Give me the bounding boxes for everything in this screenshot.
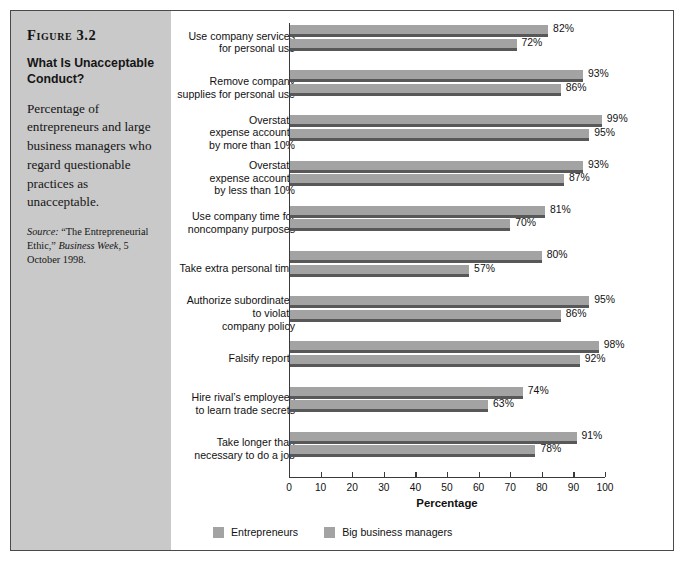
bar-value-label: 87% — [569, 172, 590, 183]
bar-value-label: 93% — [588, 68, 609, 79]
bar-value-label: 63% — [493, 398, 514, 409]
bar-shadow — [289, 228, 510, 231]
x-axis-tick — [415, 472, 416, 477]
bar-value-label: 95% — [594, 294, 615, 305]
x-axis-tick-label: 30 — [371, 482, 397, 493]
x-axis-title: Percentage — [289, 497, 605, 509]
x-axis-line — [289, 477, 605, 478]
bar-big-business-managers — [289, 39, 517, 48]
legend-swatch — [213, 527, 224, 538]
bar-big-business-managers — [289, 355, 580, 364]
bar-shadow — [289, 305, 589, 308]
figure-source: Source: “The Entrepreneurial Ethic,” Bus… — [27, 225, 157, 267]
bar-shadow — [289, 409, 488, 412]
x-axis-tick-label: 90 — [560, 482, 586, 493]
bar-shadow — [289, 441, 577, 444]
bar-shadow — [289, 138, 589, 141]
bar-value-label: 98% — [604, 339, 625, 350]
x-axis-tick — [542, 472, 543, 477]
legend-item-big-business-managers: Big business managers — [324, 526, 452, 538]
figure-title: What Is Unacceptable Conduct? — [27, 55, 157, 88]
bar-shadow — [289, 170, 583, 173]
chart-legend: EntrepreneursBig business managers — [213, 526, 452, 538]
bar-shadow — [289, 260, 542, 263]
x-axis-tick — [384, 472, 385, 477]
y-axis-line — [289, 23, 290, 477]
x-axis-tick-label: 60 — [466, 482, 492, 493]
x-axis-tick — [447, 472, 448, 477]
legend-label: Big business managers — [342, 526, 452, 538]
bar-entrepreneurs — [289, 70, 583, 79]
category-label: Authorize subordinates to violate compan… — [187, 294, 295, 332]
bar-value-label: 91% — [582, 430, 603, 441]
bar-value-label: 72% — [522, 37, 543, 48]
bar-shadow — [289, 454, 535, 457]
x-axis-tick-label: 20 — [339, 482, 365, 493]
legend-label: Entrepreneurs — [231, 526, 298, 538]
bar-value-label: 92% — [585, 353, 606, 364]
x-axis-tick — [321, 472, 322, 477]
bar-shadow — [289, 93, 561, 96]
bar-big-business-managers — [289, 84, 561, 93]
bar-big-business-managers — [289, 265, 469, 274]
category-label: Take longer than necessary to do a job — [194, 436, 295, 461]
x-axis-tick-label: 40 — [402, 482, 428, 493]
bar-shadow — [289, 364, 580, 367]
x-axis-tick-label: 50 — [434, 482, 460, 493]
bar-value-label: 95% — [594, 127, 615, 138]
category-label: Overstate expense accounts by more than … — [209, 114, 295, 152]
x-axis-tick — [479, 472, 480, 477]
bar-shadow — [289, 48, 517, 51]
x-axis-tick — [510, 472, 511, 477]
bar-entrepreneurs — [289, 432, 577, 441]
bar-value-label: 74% — [528, 385, 549, 396]
bar-value-label: 70% — [515, 217, 536, 228]
category-label: Overstate expense accounts by less than … — [210, 159, 295, 197]
bar-shadow — [289, 124, 602, 127]
bar-chart-plot: Use company services for personal use82%… — [171, 11, 673, 550]
bar-value-label: 86% — [566, 82, 587, 93]
chart-panel: Use company services for personal use82%… — [171, 11, 673, 550]
bar-big-business-managers — [289, 310, 561, 319]
bar-entrepreneurs — [289, 206, 545, 215]
x-axis-tick — [352, 472, 353, 477]
category-label: Remove company supplies for personal use — [177, 75, 295, 100]
bar-shadow — [289, 319, 561, 322]
category-label: Use company time for noncompany purposes — [188, 210, 295, 235]
bar-shadow — [289, 396, 523, 399]
bar-big-business-managers — [289, 129, 589, 138]
bar-shadow — [289, 183, 564, 186]
category-label: Take extra personal time — [180, 262, 295, 275]
category-label: Use company services for personal use — [188, 30, 295, 55]
x-axis-tick-label: 10 — [308, 482, 334, 493]
figure-number: Figure 3.2 — [27, 27, 157, 44]
bar-big-business-managers — [289, 219, 510, 228]
bar-big-business-managers — [289, 174, 564, 183]
bar-big-business-managers — [289, 400, 488, 409]
category-label: Falsify reports — [228, 352, 295, 365]
bar-shadow — [289, 34, 548, 37]
bar-value-label: 81% — [550, 204, 571, 215]
x-axis-tick-label: 70 — [497, 482, 523, 493]
bar-shadow — [289, 79, 583, 82]
bar-entrepreneurs — [289, 296, 589, 305]
bar-shadow — [289, 215, 545, 218]
figure-sidebar: Figure 3.2 What Is Unacceptable Conduct?… — [11, 11, 171, 550]
legend-item-entrepreneurs: Entrepreneurs — [213, 526, 298, 538]
bar-entrepreneurs — [289, 251, 542, 260]
x-axis-tick-label: 100 — [592, 482, 618, 493]
bar-value-label: 99% — [607, 113, 628, 124]
x-axis-tick-label: 0 — [276, 482, 302, 493]
bar-entrepreneurs — [289, 387, 523, 396]
x-axis-tick — [573, 472, 574, 477]
bar-value-label: 93% — [588, 159, 609, 170]
category-label: Hire rival’s employees to learn trade se… — [192, 391, 295, 416]
bar-entrepreneurs — [289, 25, 548, 34]
source-publication: Business Week — [58, 240, 118, 251]
figure-description: Percentage of entrepreneurs and large bu… — [27, 100, 157, 212]
bar-entrepreneurs — [289, 341, 599, 350]
source-label: Source: — [27, 226, 59, 237]
x-axis-tick-label: 80 — [529, 482, 555, 493]
bar-shadow — [289, 274, 469, 277]
bar-value-label: 78% — [540, 443, 561, 454]
